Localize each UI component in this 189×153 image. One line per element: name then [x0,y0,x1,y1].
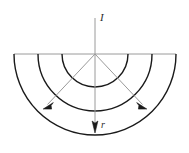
radius-ray-right-line [95,54,143,105]
physics-diagram-figure: I r [0,0,189,153]
radius-label: r [101,120,105,130]
diagram-canvas [0,0,189,153]
radius-ray-left-line [48,54,96,105]
current-label: I [100,12,104,23]
